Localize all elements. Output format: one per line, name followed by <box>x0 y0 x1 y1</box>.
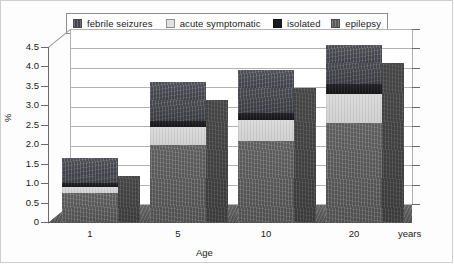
bar-top-face <box>326 45 382 63</box>
y-tick-right <box>412 126 420 127</box>
y-tick <box>41 47 48 48</box>
y-tick-right <box>412 68 420 69</box>
bar-side-face <box>206 100 228 222</box>
x-axis-unit-label: years <box>398 228 421 239</box>
y-tick-label: 4.5 <box>5 42 39 52</box>
bar-group-age-5 <box>150 100 206 222</box>
y-tick-label: 3.5 <box>5 81 39 91</box>
bar-top-face <box>238 70 294 88</box>
bar-segment-febrile-seizures <box>62 176 118 183</box>
bar-group-age-1 <box>62 176 118 222</box>
bar-segment-isolated <box>62 183 118 187</box>
y-tick-right <box>412 29 420 30</box>
y-tick <box>41 66 48 67</box>
bar-group-age-10 <box>238 88 294 222</box>
y-tick-right <box>412 185 420 186</box>
bar-segment-isolated <box>326 84 382 94</box>
y-tick-right <box>412 146 420 147</box>
x-tick-label-20: 20 <box>329 228 379 239</box>
bar-segment-epilepsy <box>150 145 206 222</box>
x-tick-label-10: 10 <box>241 228 291 239</box>
x-axis-title: Age <box>196 247 213 258</box>
bar-group-age-20 <box>326 63 382 222</box>
axis-depth-line-top <box>48 29 71 48</box>
bar-segment-acute-symptomatic <box>326 94 382 123</box>
y-tick-right <box>412 87 420 88</box>
y-axis-title: % <box>2 114 13 122</box>
bar-side-face <box>118 176 140 222</box>
bar-segment-acute-symptomatic <box>150 127 206 145</box>
bar-segment-epilepsy <box>62 193 118 222</box>
y-tick-label: 3.0 <box>5 100 39 110</box>
y-tick <box>41 144 48 145</box>
y-tick-label: 0 <box>5 217 39 227</box>
y-tick-label: 1.5 <box>5 159 39 169</box>
bar-segment-isolated <box>238 113 294 120</box>
bar-side-face <box>294 88 316 222</box>
bar-top-face <box>62 158 118 176</box>
y-tick <box>41 164 48 165</box>
bar-segment-epilepsy <box>326 123 382 222</box>
y-tick-right <box>412 107 420 108</box>
bar-segment-febrile-seizures <box>238 88 294 113</box>
right-wall-edge <box>412 29 413 205</box>
y-tick <box>41 125 48 126</box>
x-tick-label-5: 5 <box>153 228 203 239</box>
gridline <box>70 29 412 30</box>
plot-area: 4.5 4.0 3.5 3.0 2.5 2.0 1.5 1.0 0.5 0 % <box>0 0 454 264</box>
bar-top-face <box>150 82 206 100</box>
y-tick <box>41 105 48 106</box>
bar-segment-febrile-seizures <box>150 100 206 121</box>
y-tick <box>41 203 48 204</box>
y-tick-label: 2.0 <box>5 139 39 149</box>
y-tick-right <box>412 48 420 49</box>
y-tick <box>41 183 48 184</box>
y-tick <box>41 222 48 223</box>
y-tick <box>41 86 48 87</box>
bar-segment-isolated <box>150 121 206 127</box>
x-tick-label-1: 1 <box>65 228 115 239</box>
y-axis-line <box>48 47 49 223</box>
y-tick-right <box>412 204 420 205</box>
chart-screenshot: febrile seizures acute symptomatic isola… <box>0 0 454 264</box>
bar-side-face <box>382 63 404 222</box>
bar-segment-epilepsy <box>238 141 294 222</box>
bar-segment-acute-symptomatic <box>62 187 118 193</box>
y-tick-label: 4.0 <box>5 61 39 71</box>
bar-segment-acute-symptomatic <box>238 120 294 141</box>
y-tick-label: 0.5 <box>5 198 39 208</box>
y-tick-label: 1.0 <box>5 178 39 188</box>
y-tick-right <box>412 165 420 166</box>
bar-segment-febrile-seizures <box>326 63 382 84</box>
